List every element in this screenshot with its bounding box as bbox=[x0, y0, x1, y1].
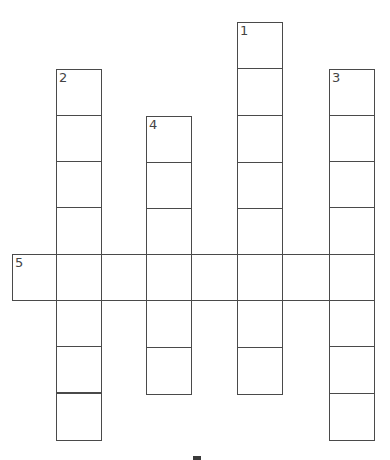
clue-number-2: 2 bbox=[59, 71, 67, 85]
cell-2down-7[interactable] bbox=[56, 346, 102, 393]
cell-5across-1[interactable]: 5 bbox=[12, 254, 57, 301]
cell-1down-7[interactable] bbox=[237, 300, 283, 348]
cell-2down-2[interactable] bbox=[56, 115, 102, 162]
crossword-grid: 5 2 4 1 3 bbox=[0, 0, 390, 460]
cell-2down-3[interactable] bbox=[56, 161, 102, 208]
clue-number-1: 1 bbox=[240, 24, 248, 38]
cell-1down-5[interactable] bbox=[237, 208, 283, 255]
cell-4down-6[interactable] bbox=[146, 347, 192, 395]
cell-3down-3[interactable] bbox=[329, 161, 375, 208]
cell-1down-1[interactable]: 1 bbox=[237, 22, 283, 69]
cell-3down-6[interactable] bbox=[329, 300, 375, 347]
clue-number-3: 3 bbox=[332, 71, 340, 85]
cell-3down-1[interactable]: 3 bbox=[329, 69, 375, 116]
cell-5across-3[interactable] bbox=[101, 254, 147, 301]
cell-1down-3[interactable] bbox=[237, 115, 283, 163]
cell-1down-2[interactable] bbox=[237, 68, 283, 116]
cell-1down-4[interactable] bbox=[237, 162, 283, 209]
cell-5across-7[interactable] bbox=[282, 254, 330, 301]
cell-4down-3[interactable] bbox=[146, 208, 192, 255]
cell-4down-5[interactable] bbox=[146, 300, 192, 348]
cell-3down-2[interactable] bbox=[329, 115, 375, 162]
cell-3down-5[interactable] bbox=[329, 254, 375, 301]
cutoff-text-fragment bbox=[193, 456, 201, 460]
cell-4down-1[interactable]: 4 bbox=[146, 116, 192, 163]
clue-number-5: 5 bbox=[15, 256, 23, 270]
cell-2down-6[interactable] bbox=[56, 300, 102, 347]
cell-2down-5[interactable] bbox=[56, 254, 102, 301]
cell-2down-4[interactable] bbox=[56, 207, 102, 255]
cell-1down-8[interactable] bbox=[237, 347, 283, 395]
clue-number-4: 4 bbox=[149, 118, 157, 132]
cell-3down-8[interactable] bbox=[329, 393, 375, 441]
cell-3down-7[interactable] bbox=[329, 346, 375, 394]
cell-5across-5[interactable] bbox=[191, 254, 238, 301]
cell-4down-2[interactable] bbox=[146, 162, 192, 209]
cell-3down-4[interactable] bbox=[329, 207, 375, 255]
cell-2down-1[interactable]: 2 bbox=[56, 69, 102, 116]
cell-4down-4[interactable] bbox=[146, 254, 192, 301]
cell-1down-6[interactable] bbox=[237, 254, 283, 301]
cell-2down-8[interactable] bbox=[56, 393, 102, 441]
